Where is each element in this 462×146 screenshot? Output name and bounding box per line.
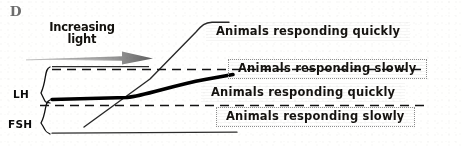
response-label-quickly-top: Animals responding quickly [206,22,410,42]
fsh-baseline [52,132,237,133]
response-label-slowly-upper: Animals responding slowly [228,59,427,79]
response-label-quickly-middle: Animals responding quickly [201,83,405,103]
response-label-slowly-lower: Animals responding slowly [216,107,415,127]
figure-panel-d: D Increasing light [0,0,462,146]
lh-brace [41,67,50,103]
axis-label-fsh: FSH [8,118,32,130]
axis-label-lh: LH [13,88,29,100]
